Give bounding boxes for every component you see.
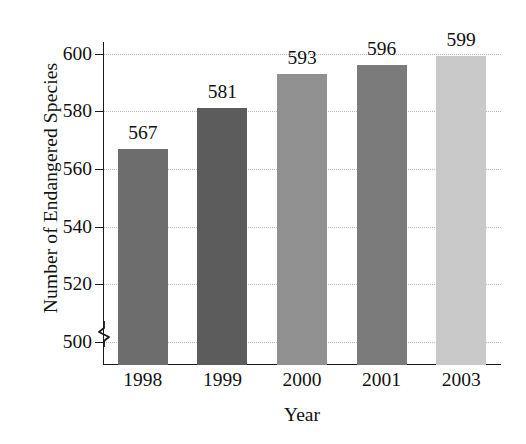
x-axis-tick-label: 2000 [262,370,342,390]
bar [277,74,327,365]
y-axis-tick-label: 540 [46,217,92,237]
bar-group: 567 [118,42,168,365]
y-axis-tick-label: 500 [46,332,92,352]
bar-value-label: 593 [287,48,316,68]
y-axis-tick-label: 520 [46,275,92,295]
bar-group: 581 [197,42,247,365]
bar [118,149,168,365]
bar-value-label: 581 [208,82,237,102]
x-axis-title: Year [103,404,501,426]
x-axis-tick-labels: 19981999200020012003 [103,370,501,396]
bars: 567581593596599 [103,42,501,365]
bar [197,108,247,365]
y-axis-tick-labels: 500520540560580600 [42,0,92,444]
plot-area: 567581593596599 [103,42,501,365]
y-axis-tick-label: 580 [46,101,92,121]
y-axis-tick-mark [95,284,103,285]
bar [357,65,407,365]
bar-group: 599 [436,42,486,365]
x-axis-tick-label: 1998 [103,370,183,390]
bar-value-label: 596 [367,39,396,59]
y-axis-tick-mark [95,111,103,112]
y-axis-tick-label: 560 [46,159,92,179]
y-axis-tick-mark [95,54,103,55]
bar-value-label: 567 [128,123,157,143]
x-axis-tick-label: 2001 [342,370,422,390]
y-axis-tick-label: 600 [46,44,92,64]
bar [436,56,486,365]
x-axis-tick-label: 2003 [421,370,501,390]
y-axis-tick-mark [95,227,103,228]
y-axis-tick-mark [95,169,103,170]
bar-value-label: 599 [447,30,476,50]
bar-chart: Number of Endangered Species 50052054056… [0,0,526,444]
x-axis-tick-label: 1999 [183,370,263,390]
bar-group: 593 [277,42,327,365]
bar-group: 596 [357,42,407,365]
